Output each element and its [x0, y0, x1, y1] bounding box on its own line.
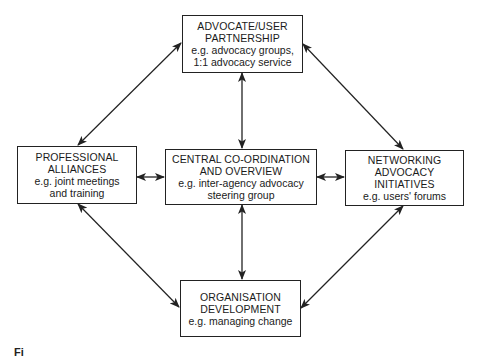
node-example: 1:1 advocacy service — [193, 56, 291, 68]
node-example: e.g. inter-agency advocacy — [178, 177, 304, 189]
node-title: ADVOCATE/USER — [197, 20, 287, 32]
node-title: ADVOCACY — [375, 166, 435, 178]
arrow-left-bottom — [78, 204, 179, 307]
node-networking-advocacy-initiatives: NETWORKING ADVOCACY INITIATIVES e.g. use… — [345, 150, 464, 206]
node-title: ALLIANCES — [48, 163, 107, 175]
arrow-top-right — [303, 44, 403, 149]
arrow-right-bottom — [301, 206, 403, 308]
node-example: steering group — [207, 189, 274, 201]
node-example: e.g. joint meetings — [34, 175, 119, 187]
node-title: PROFESSIONAL — [36, 151, 119, 163]
figure-caption: Fi — [14, 346, 24, 358]
node-title: AND OVERVIEW — [200, 165, 283, 177]
node-example: e.g. advocacy groups, — [191, 44, 294, 56]
arrow-top-left — [78, 43, 181, 145]
node-example: and training — [50, 187, 105, 199]
node-title: DEVELOPMENT — [200, 303, 280, 315]
node-professional-alliances: PROFESSIONAL ALLIANCES e.g. joint meetin… — [17, 146, 137, 204]
node-example: e.g. users' forums — [363, 190, 446, 202]
node-title: PARTNERSHIP — [205, 32, 280, 44]
node-organisation-development: ORGANISATION DEVELOPMENT e.g. managing c… — [180, 280, 301, 337]
node-advocate-user-partnership: ADVOCATE/USER PARTNERSHIP e.g. advocacy … — [182, 15, 303, 73]
node-title: CENTRAL CO-ORDINATION — [172, 153, 310, 165]
node-title: NETWORKING — [368, 154, 441, 166]
node-central-coordination: CENTRAL CO-ORDINATION AND OVERVIEW e.g. … — [165, 149, 317, 205]
node-title: ORGANISATION — [200, 291, 281, 303]
node-example: e.g. managing change — [189, 315, 293, 327]
node-title: INITIATIVES — [374, 178, 434, 190]
